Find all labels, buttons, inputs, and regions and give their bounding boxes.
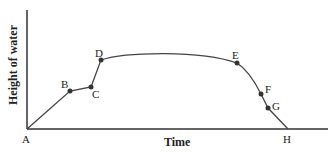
point-f (259, 92, 264, 97)
label-h: H (283, 133, 291, 145)
y-axis-title: Height of water (6, 24, 20, 105)
x-axis-title: Time (164, 135, 191, 149)
label-e: E (232, 49, 239, 61)
label-c: C (92, 88, 99, 100)
label-b: B (61, 78, 68, 90)
label-g: G (272, 100, 280, 112)
water-height-curve (27, 54, 288, 129)
point-g (266, 106, 271, 111)
label-d: D (95, 47, 103, 59)
water-height-diagram: A B C D E F G H Time Height of water (0, 0, 331, 152)
label-f: F (265, 83, 271, 95)
point-e (235, 61, 240, 66)
label-a: A (22, 133, 30, 145)
